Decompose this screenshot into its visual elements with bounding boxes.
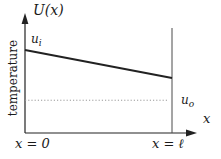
x-equals-0-label: x = 0 xyxy=(15,137,50,150)
u-i-label: ui xyxy=(31,33,42,48)
temperature-profile-line xyxy=(25,50,172,78)
x-equals-l-label: x = ℓ xyxy=(152,137,184,150)
x-axis-label: x xyxy=(203,112,210,125)
chart-title: U(x) xyxy=(33,3,64,17)
u-o-label: uo xyxy=(181,94,194,109)
x-axis-arrowhead-icon xyxy=(186,130,197,137)
y-axis-arrowhead-icon xyxy=(22,13,29,24)
y-axis-label: temperature xyxy=(7,40,19,116)
temperature-profile-figure: U(x) ui uo x x = 0 x = ℓ temperature xyxy=(0,0,221,159)
